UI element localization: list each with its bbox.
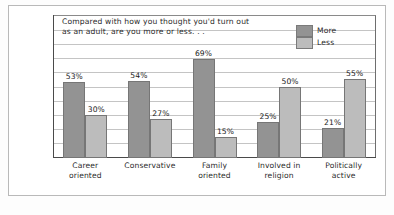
bar-value-label: 50%: [274, 77, 306, 86]
bar-more: [63, 82, 85, 158]
bar-value-label: 15%: [210, 127, 242, 136]
bar-value-label: 69%: [188, 49, 220, 58]
bars-layer: 53%30%54%27%69%15%25%50%21%55%: [53, 15, 376, 158]
bar-value-label: 55%: [339, 69, 371, 78]
category-label: Involved in religion: [247, 161, 312, 180]
figure-page: Compared with how you thought you'd turn…: [0, 0, 394, 215]
category-label: Politically active: [311, 161, 376, 180]
bar-more: [322, 128, 344, 158]
bar-more: [193, 59, 215, 158]
category-labels: Career orientedConservativeFamily orient…: [53, 161, 376, 191]
bar-more: [128, 81, 150, 158]
bar-less: [150, 119, 172, 158]
category-label: Career oriented: [53, 161, 118, 180]
bar-less: [85, 115, 107, 158]
category-label: Conservative: [118, 161, 183, 171]
bar-more: [257, 122, 279, 158]
bar-value-label: 27%: [145, 109, 177, 118]
bar-less: [279, 87, 301, 159]
bar-less: [344, 79, 366, 158]
bar-value-label: 30%: [80, 105, 112, 114]
bar-value-label: 54%: [123, 71, 155, 80]
bar-less: [215, 137, 237, 158]
bar-value-label: 53%: [58, 72, 90, 81]
category-label: Family oriented: [182, 161, 247, 180]
